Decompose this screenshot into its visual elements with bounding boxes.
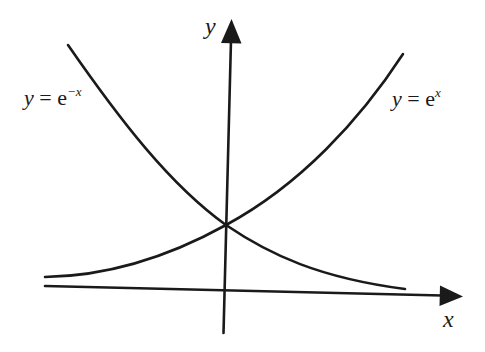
- curve-label-exp-neg-x: y = e−x: [24, 87, 82, 109]
- y-axis: [221, 19, 242, 333]
- exponential-graph-diagram: y = e−x y = ex y x: [0, 0, 485, 352]
- curve-label-exp-x: y = ex: [392, 88, 441, 110]
- x-axis-label: x: [443, 307, 454, 331]
- y-axis-label: y: [205, 14, 216, 38]
- y-axis-arrowhead-icon: [221, 19, 242, 44]
- label-exponent-exp-x: x: [435, 85, 441, 100]
- intersection-point: [224, 223, 228, 227]
- x-axis-arrowhead-icon: [440, 286, 464, 307]
- label-base-exp-neg-x: e: [57, 85, 67, 110]
- graph-canvas: [0, 0, 485, 352]
- label-exponent-exp-neg-x: −x: [67, 84, 82, 99]
- curve-exp-neg-x: [68, 45, 405, 289]
- label-base-exp-x: e: [425, 86, 435, 111]
